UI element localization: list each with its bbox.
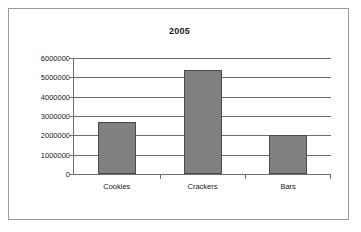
y-tick-label: 4000000: [12, 92, 70, 101]
gridline: [74, 174, 331, 175]
y-tick-label: 2000000: [12, 131, 70, 140]
gridline: [74, 58, 331, 59]
y-tick-mark: [70, 174, 74, 175]
category-divider: [245, 174, 246, 179]
y-tick-label: 0: [12, 170, 70, 179]
bar-bars[interactable]: [269, 135, 307, 174]
category-divider: [330, 174, 331, 179]
y-tick-label: 6000000: [12, 54, 70, 63]
y-tick-mark: [70, 155, 74, 156]
y-tick-mark: [70, 135, 74, 136]
y-tick-label: 1000000: [12, 150, 70, 159]
y-tick-mark: [70, 116, 74, 117]
bar-crackers[interactable]: [184, 70, 222, 174]
category-label-crackers: Crackers: [160, 182, 246, 191]
bar-cookies[interactable]: [98, 122, 136, 174]
y-tick-label: 5000000: [12, 73, 70, 82]
category-label-bars: Bars: [245, 182, 331, 191]
y-tick-mark: [70, 58, 74, 59]
y-tick-mark: [70, 77, 74, 78]
y-tick-mark: [70, 97, 74, 98]
category-divider: [160, 174, 161, 179]
category-label-cookies: Cookies: [74, 182, 160, 191]
y-tick-label: 3000000: [12, 112, 70, 121]
plot-area: [74, 58, 331, 174]
y-axis-tick-labels: 6000000 5000000 4000000 3000000 2000000 …: [9, 58, 70, 175]
chart-frame: 2005 6000000 5000000 4000000 3000000 200…: [8, 8, 349, 220]
chart-title: 2005: [9, 26, 350, 36]
